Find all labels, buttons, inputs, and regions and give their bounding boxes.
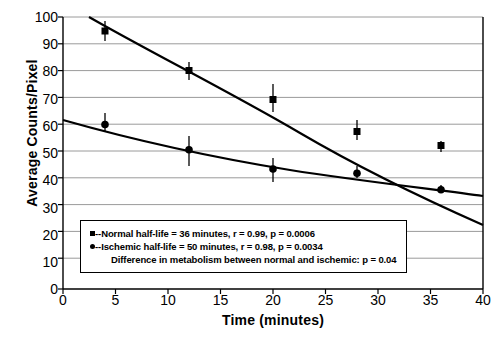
x-tick-20: 20	[253, 293, 293, 307]
x-tick-30: 30	[358, 293, 398, 307]
data-point-normal-12	[186, 67, 193, 74]
x-tick-15: 15	[201, 293, 241, 307]
x-axis-title: Time (minutes)	[63, 312, 483, 328]
x-tick-35: 35	[411, 293, 451, 307]
data-point-ischemic-12	[185, 146, 193, 154]
legend-label-normal: --Normal half-life = 36 minutes, r = 0.9…	[95, 228, 315, 239]
data-point-normal-4	[102, 28, 109, 35]
data-point-ischemic-36	[437, 186, 445, 194]
x-tick-5: 5	[96, 293, 136, 307]
x-tick-40: 40	[463, 293, 502, 307]
error-bars-normal	[105, 21, 441, 152]
plot-canvas	[0, 0, 502, 341]
data-point-ischemic-4	[101, 121, 109, 129]
y-axis-ticks	[58, 17, 63, 289]
x-axis-tick-labels: 0 5 10 15 20 25 30 35 40	[0, 293, 502, 313]
data-point-normal-20	[270, 96, 277, 103]
data-point-normal-28	[354, 128, 361, 135]
square-marker-icon	[90, 231, 95, 236]
legend-row-ischemic: --Ischemic half-life = 50 minutes, r = 0…	[81, 240, 406, 253]
fit-curve-normal	[89, 17, 483, 225]
legend-row-difference: Difference in metabolism between normal …	[81, 253, 406, 266]
x-tick-25: 25	[306, 293, 346, 307]
x-tick-10: 10	[148, 293, 188, 307]
data-point-normal-36	[438, 142, 445, 149]
chart-figure: Average Counts/Pixel 100 90 80 70 60 50 …	[0, 0, 502, 341]
data-point-ischemic-28	[353, 170, 361, 178]
legend-label-ischemic: --Ischemic half-life = 50 minutes, r = 0…	[95, 241, 323, 252]
data-point-ischemic-20	[269, 165, 277, 173]
legend-row-normal: --Normal half-life = 36 minutes, r = 0.9…	[81, 227, 406, 240]
circle-marker-icon	[90, 244, 95, 249]
chart-legend: --Normal half-life = 36 minutes, r = 0.9…	[80, 220, 407, 273]
x-tick-0: 0	[43, 293, 83, 307]
